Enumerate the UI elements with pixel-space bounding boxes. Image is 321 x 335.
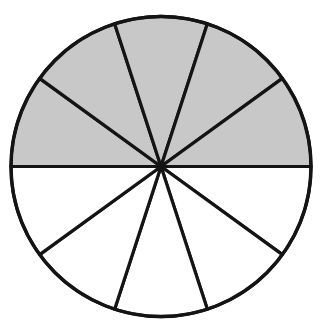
fraction-circle-figure: [0, 0, 321, 335]
pie-chart-svg: [0, 0, 321, 335]
